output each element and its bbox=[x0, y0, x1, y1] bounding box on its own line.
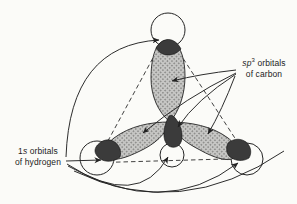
sp3-lobe-front bbox=[164, 115, 182, 147]
sp3-orbitals-label: sp3 orbitals of carbon bbox=[236, 58, 292, 80]
sp3-orbitals-label-line1: sp3 orbitals bbox=[236, 58, 292, 69]
sp3-orbitals-label-line2: of carbon bbox=[236, 69, 292, 80]
leader-arrow-carbon-right-lobe bbox=[208, 76, 235, 134]
1s-orbitals-label-line1: 1s orbitals bbox=[5, 146, 71, 157]
1s-orbitals-label: 1s orbitals of hydrogen bbox=[5, 146, 71, 168]
1s-orbitals-label-line2: of hydrogen bbox=[5, 157, 71, 168]
overlap-region-right bbox=[227, 139, 251, 160]
orbital-diagram bbox=[0, 0, 297, 204]
